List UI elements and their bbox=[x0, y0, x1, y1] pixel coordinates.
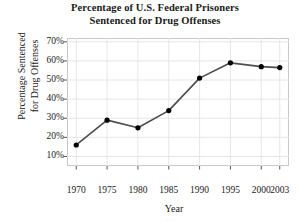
chart-title-line-1: Percentage of U.S. Federal Prisoners bbox=[26, 2, 284, 15]
data-point-1975 bbox=[104, 118, 109, 123]
data-point-1995 bbox=[228, 60, 233, 65]
x-axis-title: Year bbox=[60, 203, 288, 214]
data-point-1985 bbox=[166, 108, 171, 113]
data-point-2003 bbox=[277, 65, 282, 70]
y-tick-label-70%: 70% bbox=[34, 37, 64, 47]
y-tick-label-10%: 10% bbox=[34, 151, 64, 161]
data-points bbox=[74, 60, 283, 147]
data-point-1970 bbox=[74, 142, 79, 147]
chart-figure: Percentage of U.S. Federal Prisoners Sen… bbox=[0, 0, 302, 222]
x-axis-tick-labels: 19701975198019851990199520002003 bbox=[0, 186, 302, 200]
y-tick-label-30%: 30% bbox=[34, 113, 64, 123]
y-tick-label-50%: 50% bbox=[34, 75, 64, 85]
gridlines bbox=[67, 42, 289, 157]
y-tick-label-20%: 20% bbox=[34, 132, 64, 142]
plot-svg bbox=[67, 38, 289, 166]
data-point-1980 bbox=[135, 125, 140, 130]
data-point-1990 bbox=[197, 76, 202, 81]
chart-title-line-2: Sentenced for Drug Offenses bbox=[26, 15, 284, 28]
x-tick-label-2003: 2003 bbox=[260, 186, 300, 196]
y-axis-title-line-1: Percentage Sentenced bbox=[15, 11, 28, 141]
chart-title: Percentage of U.S. Federal Prisoners Sen… bbox=[26, 2, 284, 27]
y-tick-label-40%: 40% bbox=[34, 94, 64, 104]
data-point-2000 bbox=[259, 64, 264, 69]
y-tick-label-60%: 60% bbox=[34, 56, 64, 66]
